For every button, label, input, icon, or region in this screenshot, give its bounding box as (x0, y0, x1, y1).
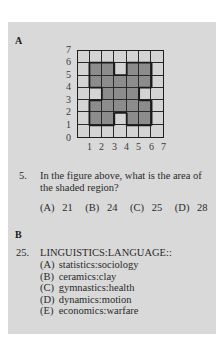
shaded-cell (102, 63, 114, 75)
choice-c[interactable]: (C) gymnastics:health (40, 282, 139, 294)
grid-cell (127, 125, 139, 137)
shaded-cell (127, 88, 139, 100)
grid-cell (114, 63, 126, 75)
question-25-stem: LINGUISTICS:LANGUAGE:: (40, 247, 210, 259)
grid (77, 50, 164, 138)
grid-cell (151, 51, 163, 63)
y-axis-label-4: 4 (66, 82, 71, 92)
y-axis-label-5: 5 (66, 70, 71, 80)
section-b-label: B (15, 229, 22, 240)
shaded-cell (102, 76, 114, 88)
choice-a[interactable]: (A) statistics:sociology (40, 259, 139, 271)
grid-cell (151, 125, 163, 137)
grid-cell (151, 88, 163, 100)
grid-figure (77, 50, 164, 138)
y-axis-label-6: 6 (66, 57, 71, 67)
shaded-cell (127, 63, 139, 75)
grid-cell (78, 112, 90, 124)
grid-cell (78, 125, 90, 137)
shaded-cell (127, 100, 139, 112)
shaded-cell (114, 88, 126, 100)
shaded-cell (139, 63, 151, 75)
grid-cell (139, 125, 151, 137)
shaded-cell (90, 100, 102, 112)
y-axis-label-2: 2 (66, 107, 71, 117)
y-axis-label-3: 3 (66, 95, 71, 105)
grid-cell (90, 51, 102, 63)
question-5-number: 5. (19, 170, 27, 181)
choice-e[interactable]: (E) economics:warfare (40, 305, 139, 317)
grid-cell (102, 51, 114, 63)
grid-cell (114, 51, 126, 63)
grid-cell (78, 51, 90, 63)
choice-c[interactable]: (C) 25 (130, 202, 167, 213)
question-5-text: In the figure above, what is the area of… (40, 170, 210, 193)
shaded-cell (127, 112, 139, 124)
grid-cell (90, 125, 102, 137)
grid-cell (151, 100, 163, 112)
x-axis-label-6: 6 (149, 142, 154, 152)
grid-cell (78, 76, 90, 88)
choice-d[interactable]: (D) dynamics:motion (40, 294, 139, 306)
shaded-cell (90, 112, 102, 124)
shaded-cell (114, 100, 126, 112)
shaded-cell (139, 100, 151, 112)
x-axis-label-1: 1 (87, 142, 92, 152)
grid-cell (78, 63, 90, 75)
x-axis-label-4: 4 (124, 142, 129, 152)
y-axis-label-7: 7 (66, 45, 71, 55)
shaded-cell (114, 76, 126, 88)
grid-cell (139, 51, 151, 63)
grid-cell (151, 112, 163, 124)
shaded-cell (90, 63, 102, 75)
question-25-choices: (A) statistics:sociology (B) ceramics:cl… (40, 259, 139, 317)
y-axis-label-1: 1 (66, 120, 71, 130)
y-axis-label-0: 0 (66, 133, 71, 143)
grid-cell (114, 112, 126, 124)
choice-d[interactable]: (D) 28 (175, 202, 213, 213)
shaded-cell (102, 100, 114, 112)
x-axis-label-2: 2 (99, 142, 104, 152)
shaded-cell (90, 76, 102, 88)
x-axis-label-5: 5 (136, 142, 141, 152)
grid-cell (127, 51, 139, 63)
shaded-cell (139, 112, 151, 124)
grid-cell (114, 125, 126, 137)
grid-cell (139, 88, 151, 100)
question-25-number: 25. (16, 247, 29, 258)
x-axis-label-7: 7 (161, 142, 166, 152)
question-5-choices: (A) 21 (B) 24 (C) 25 (D) 28 (E) 32 (40, 202, 219, 213)
grid-cell (151, 76, 163, 88)
choice-b[interactable]: (B) 24 (85, 202, 122, 213)
grid-cell (102, 125, 114, 137)
shaded-cell (127, 76, 139, 88)
grid-cell (78, 100, 90, 112)
grid-cell (78, 88, 90, 100)
shaded-cell (102, 112, 114, 124)
x-axis-label-3: 3 (112, 142, 117, 152)
grid-cell (90, 88, 102, 100)
shaded-cell (102, 88, 114, 100)
shaded-cell (139, 76, 151, 88)
choice-a[interactable]: (A) 21 (40, 202, 78, 213)
grid-cell (151, 63, 163, 75)
section-a-label: A (15, 35, 22, 46)
choice-b[interactable]: (B) ceramics:clay (40, 271, 139, 283)
